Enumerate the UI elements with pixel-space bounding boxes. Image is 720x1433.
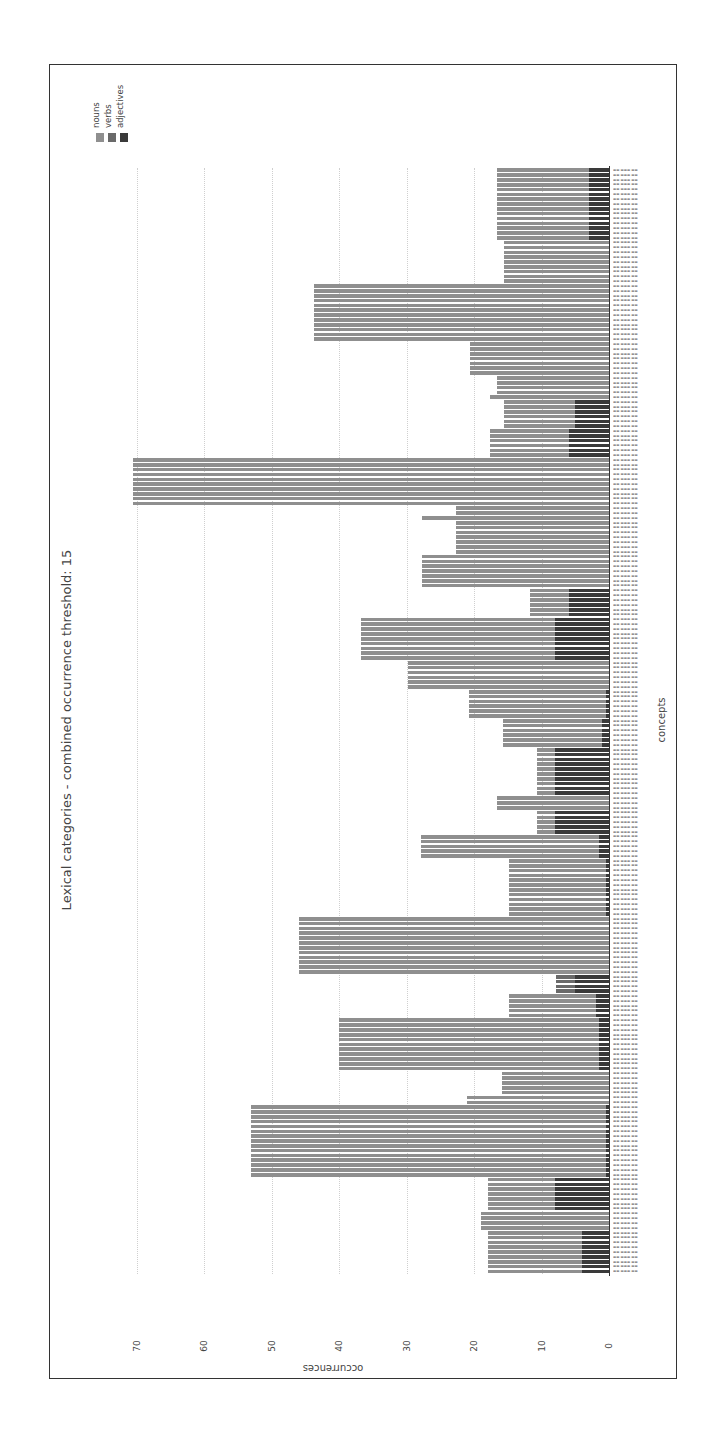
bar: [361, 637, 609, 641]
concept-label: ▬▬ ▬▬▬ ▬▬: [613, 883, 655, 887]
bar: [251, 1130, 609, 1134]
adjectives-segment: [575, 400, 609, 404]
bar: [456, 506, 609, 510]
concept-label: ▬▬ ▬▬▬ ▬▬: [613, 748, 655, 752]
bar: [490, 429, 609, 433]
concept-label: ▬▬ ▬▬▬ ▬▬: [613, 665, 655, 669]
legend-item-adjectives: adjectives: [120, 70, 131, 142]
nouns-segment: [502, 1091, 609, 1095]
bar: [339, 1018, 609, 1022]
concept-label: ▬▬ ▬▬▬ ▬▬: [613, 656, 655, 660]
adjectives-segment: [575, 989, 609, 993]
concept-label: ▬▬ ▬▬▬ ▬▬: [613, 289, 655, 293]
adjectives-segment: [582, 1255, 609, 1259]
nouns-segment: [314, 323, 609, 327]
nouns-segment: [251, 1115, 605, 1119]
adjectives-segment: [599, 1043, 609, 1047]
concept-label: ▬▬ ▬▬▬ ▬▬: [613, 1168, 655, 1172]
concept-label: ▬▬ ▬▬▬ ▬▬: [613, 694, 655, 698]
bar: [421, 849, 609, 853]
concept-label: ▬▬ ▬▬▬ ▬▬: [613, 786, 655, 790]
concept-label: ▬▬ ▬▬▬ ▬▬: [613, 1255, 655, 1259]
nouns-segment: [488, 1260, 583, 1264]
legend-label-verbs: verbs: [103, 104, 113, 128]
tick-label: 20: [469, 1340, 479, 1351]
nouns-segment: [361, 642, 555, 646]
nouns-segment: [314, 333, 609, 337]
bar: [133, 482, 609, 486]
concept-label: ▬▬ ▬▬▬ ▬▬: [613, 661, 655, 665]
bar: [497, 197, 609, 201]
bar: [469, 704, 609, 708]
concept-label: ▬▬ ▬▬▬ ▬▬: [613, 994, 655, 998]
concept-label: ▬▬ ▬▬▬ ▬▬: [613, 255, 655, 259]
nouns-segment: [299, 927, 610, 931]
nouns-segment: [339, 1057, 599, 1061]
nouns-segment: [509, 994, 595, 998]
concept-label: ▬▬ ▬▬▬ ▬▬: [613, 390, 655, 394]
nouns-segment: [470, 357, 609, 361]
bar: [456, 526, 609, 530]
nouns-segment: [490, 453, 568, 457]
concept-label: ▬▬ ▬▬▬ ▬▬: [613, 1061, 655, 1065]
bar: [537, 753, 609, 757]
concept-label: ▬▬ ▬▬▬ ▬▬: [613, 651, 655, 655]
nouns-segment: [509, 912, 606, 916]
concept-label: ▬▬ ▬▬▬ ▬▬: [613, 608, 655, 612]
concept-label: ▬▬ ▬▬▬ ▬▬: [613, 458, 655, 462]
concept-label: ▬▬ ▬▬▬ ▬▬: [613, 535, 655, 539]
concept-label: ▬▬ ▬▬▬ ▬▬: [613, 1057, 655, 1061]
nouns-segment: [509, 878, 606, 882]
bar: [488, 1192, 610, 1196]
concept-label: ▬▬ ▬▬▬ ▬▬: [613, 1066, 655, 1070]
nouns-segment: [361, 651, 555, 655]
adjectives-segment: [582, 1260, 609, 1264]
nouns-segment: [133, 458, 609, 462]
bar: [339, 1052, 609, 1056]
nouns-segment: [509, 898, 606, 902]
bar: [509, 878, 609, 882]
nouns-segment: [488, 1245, 583, 1249]
concept-label: ▬▬ ▬▬▬ ▬▬: [613, 197, 655, 201]
bar: [488, 1236, 610, 1240]
concept-label: ▬▬ ▬▬▬ ▬▬: [613, 207, 655, 211]
verbs-segment: [556, 989, 575, 993]
concept-label: ▬▬ ▬▬▬ ▬▬: [613, 588, 655, 592]
nouns-segment: [537, 767, 555, 771]
nouns-segment: [488, 1202, 556, 1206]
bar: [556, 989, 609, 993]
concept-label: ▬▬ ▬▬▬ ▬▬: [613, 472, 655, 476]
bar: [530, 608, 609, 612]
adjectives-segment: [602, 733, 609, 737]
bar: [488, 1270, 610, 1274]
concept-label: ▬▬ ▬▬▬ ▬▬: [613, 834, 655, 838]
nouns-segment: [456, 545, 609, 549]
concept-label: ▬▬ ▬▬▬ ▬▬: [613, 806, 655, 810]
nouns-segment: [339, 1018, 599, 1022]
adjectives-segment: [589, 202, 609, 206]
bar: [133, 497, 609, 501]
bar: [497, 178, 609, 182]
nouns-segment: [314, 304, 609, 308]
nouns-segment: [502, 1086, 609, 1090]
bar: [408, 676, 609, 680]
bar: [361, 622, 609, 626]
bar: [408, 680, 609, 684]
nouns-segment: [502, 1076, 609, 1080]
bar: [488, 1187, 610, 1191]
concept-label: ▬▬ ▬▬▬ ▬▬: [613, 352, 655, 356]
concept-label: ▬▬ ▬▬▬ ▬▬: [613, 1221, 655, 1225]
adjectives-segment: [602, 724, 609, 728]
bar: [251, 1134, 609, 1138]
nouns-segment: [314, 299, 609, 303]
bar: [503, 724, 609, 728]
nouns-segment: [408, 680, 609, 684]
concept-label: ▬▬ ▬▬▬ ▬▬: [613, 878, 655, 882]
nouns-segment: [504, 410, 575, 414]
concept-label: ▬▬ ▬▬▬ ▬▬: [613, 216, 655, 220]
bar: [314, 289, 609, 293]
adjectives-segment: [555, 782, 609, 786]
bar: [133, 502, 609, 506]
tick-label: 70: [132, 1340, 142, 1351]
nouns-segment: [408, 671, 609, 675]
